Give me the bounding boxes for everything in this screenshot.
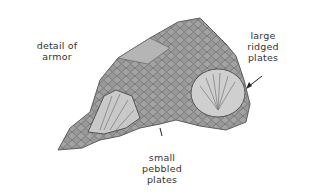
label-line: ridged [239, 41, 286, 52]
label-detail-of-armor: detail of armor [28, 40, 86, 62]
label-line: pebbled [132, 163, 192, 174]
label-line: small [132, 152, 192, 163]
label-line: plates [239, 52, 286, 63]
large-ridged-plate [191, 69, 245, 117]
label-small-pebbled-plates: small pebbled plates [132, 152, 192, 185]
label-large-ridged-plates: large ridged plates [239, 30, 286, 63]
label-line: large [239, 30, 286, 41]
label-line: armor [28, 51, 86, 62]
label-line: plates [132, 174, 192, 185]
label-line: detail of [28, 40, 86, 51]
small-plates-pointer [160, 128, 162, 136]
